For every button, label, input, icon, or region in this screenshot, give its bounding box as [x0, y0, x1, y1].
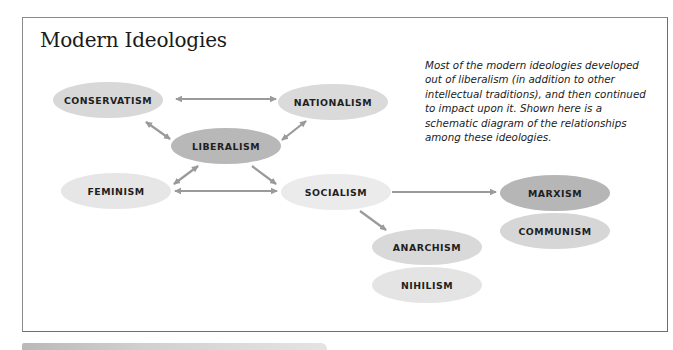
node-socialism: SOCIALISM: [281, 174, 391, 210]
node-feminism: FEMINISM: [61, 173, 171, 209]
arrow-nationalism-liberalism: [282, 121, 306, 140]
node-communism: COMMUNISM: [500, 213, 610, 249]
node-conservatism: CONSERVATISM: [53, 82, 163, 118]
arrow-conservatism-liberalism: [146, 122, 170, 139]
node-anarchism: ANARCHISM: [372, 229, 482, 265]
arrow-liberalism-socialism: [252, 166, 276, 184]
node-marxism: MARXISM: [500, 175, 610, 211]
node-liberalism: LIBERALISM: [171, 128, 281, 164]
arrow-liberalism-feminism: [174, 166, 198, 184]
page-edge-decoration: [22, 343, 327, 350]
node-nationalism: NATIONALISM: [278, 84, 388, 120]
node-nihilism: NIHILISM: [372, 267, 482, 303]
arrow-socialism-anarchism: [360, 211, 386, 230]
